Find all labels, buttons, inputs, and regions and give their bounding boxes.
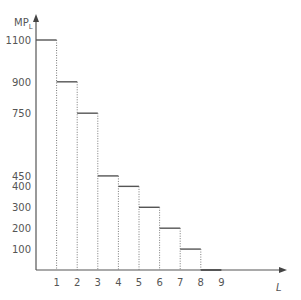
x-tick-label: 8 bbox=[198, 277, 204, 288]
y-axis-label: MPL bbox=[14, 17, 33, 31]
x-tick-label: 1 bbox=[53, 277, 59, 288]
marginal-product-step-chart: MPL L 1002003004004507509001100 12345678… bbox=[0, 0, 301, 300]
x-axis-arrow-icon bbox=[279, 267, 287, 273]
y-tick-label: 200 bbox=[12, 223, 31, 234]
x-tick-label: 2 bbox=[74, 277, 80, 288]
step-series bbox=[36, 40, 221, 270]
x-tick-label: 5 bbox=[136, 277, 142, 288]
y-axis-arrow-icon bbox=[33, 14, 39, 22]
y-tick-label: 1100 bbox=[6, 35, 31, 46]
x-axis-label: L bbox=[276, 282, 282, 293]
y-tick-labels: 1002003004004507509001100 bbox=[6, 35, 31, 255]
y-tick-label: 450 bbox=[12, 171, 31, 182]
y-axis bbox=[33, 14, 39, 270]
y-tick-label: 900 bbox=[12, 77, 31, 88]
x-tick-label: 6 bbox=[156, 277, 162, 288]
x-tick-label: 4 bbox=[115, 277, 121, 288]
x-tick-label: 3 bbox=[95, 277, 101, 288]
x-axis bbox=[36, 267, 287, 273]
y-tick-label: 300 bbox=[12, 202, 31, 213]
y-tick-label: 750 bbox=[12, 108, 31, 119]
y-tick-label: 100 bbox=[12, 244, 31, 255]
x-tick-labels: 123456789 bbox=[53, 277, 224, 288]
x-tick-label: 7 bbox=[177, 277, 183, 288]
x-tick-label: 9 bbox=[218, 277, 224, 288]
y-tick-label: 400 bbox=[12, 181, 31, 192]
